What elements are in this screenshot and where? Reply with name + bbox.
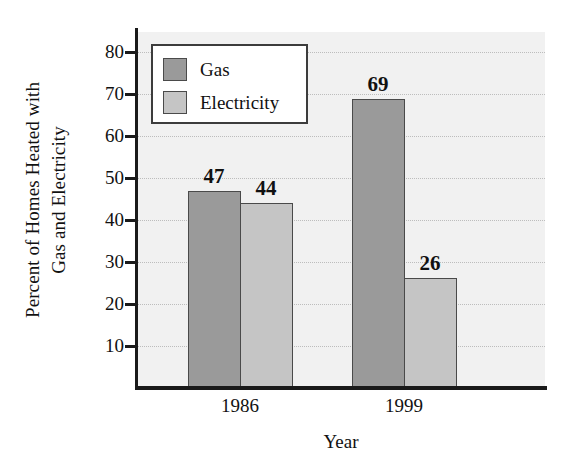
- legend-label-electricity: Electricity: [200, 93, 279, 112]
- y-tick-label-50: 50: [80, 168, 124, 187]
- legend-item-gas[interactable]: Gas: [163, 53, 306, 86]
- y-tick-label-70: 70: [80, 84, 124, 103]
- gridline-60: [137, 136, 545, 137]
- x-axis-title: Year: [137, 432, 545, 451]
- y-axis-tick-labels: 80 70 60 50 40 30 20 10: [76, 0, 124, 466]
- legend: Gas Electricity: [151, 44, 308, 124]
- legend-swatch-gas-icon: [163, 58, 187, 81]
- x-tick-label-1999: 1999: [344, 396, 464, 415]
- y-axis-title-line-2: Gas and Electricity: [46, 82, 72, 318]
- legend-item-electricity[interactable]: Electricity: [163, 86, 306, 119]
- y-tick-label-20: 20: [80, 294, 124, 313]
- y-axis-title-line-1: Percent of Homes Heated with: [20, 82, 46, 318]
- y-tick-label-60: 60: [80, 126, 124, 145]
- plot-area: 47 44 69 26 Gas Electricity: [137, 32, 545, 387]
- y-axis-line: [135, 28, 138, 390]
- x-tick-label-1986: 1986: [180, 396, 300, 415]
- legend-label-gas: Gas: [200, 60, 230, 79]
- y-axis-title: Percent of Homes Heated with Gas and Ele…: [0, 0, 92, 400]
- bar-value-1986-electricity: 44: [236, 178, 296, 199]
- bar-value-1999-electricity: 26: [400, 253, 460, 274]
- y-tick-label-80: 80: [80, 42, 124, 61]
- y-tick-label-10: 10: [80, 336, 124, 355]
- bar-value-1999-gas: 69: [348, 74, 408, 95]
- bar-value-1986-gas: 47: [184, 166, 244, 187]
- legend-swatch-electricity-icon: [163, 91, 187, 114]
- y-tick-label-30: 30: [80, 252, 124, 271]
- bar-1986-gas[interactable]: [188, 191, 241, 387]
- y-tick-label-40: 40: [80, 210, 124, 229]
- bar-1999-electricity[interactable]: [404, 278, 457, 387]
- bar-1999-gas[interactable]: [352, 99, 405, 387]
- bar-chart-figure: Percent of Homes Heated with Gas and Ele…: [0, 0, 564, 466]
- bar-1986-electricity[interactable]: [240, 203, 293, 387]
- x-axis-line: [135, 386, 547, 390]
